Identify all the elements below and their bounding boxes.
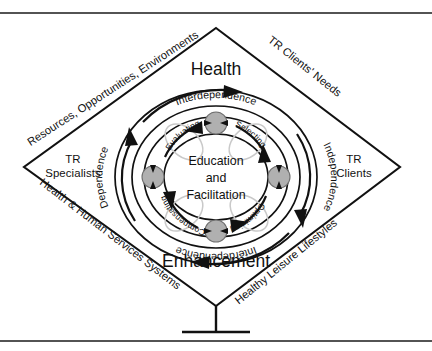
edge-label-bottom-left: Health & Human Services Systems — [38, 176, 184, 292]
corner-label-left-line1: TR — [65, 153, 80, 165]
corner-label-right-line2: Clients — [336, 167, 372, 179]
node-left — [142, 165, 164, 189]
core-line-2: and — [206, 171, 227, 185]
edge-label-top-left: Resources, Opportunities, Environments — [25, 28, 201, 148]
flow-arc-outer-right — [297, 134, 310, 215]
node-bottom — [204, 220, 228, 242]
corner-label-right-line1: TR — [346, 153, 361, 165]
figure-root: Resources, Opportunities, Environments T… — [0, 0, 432, 351]
tr-service-delivery-model-diagram: Resources, Opportunities, Environments T… — [0, 0, 432, 351]
ring-label-right: Independence — [321, 140, 341, 214]
pedestal-stand — [182, 306, 250, 332]
axis-label-health: Health — [191, 59, 242, 79]
node-right — [268, 165, 290, 189]
ring-label-top: Interdependence — [173, 88, 258, 107]
node-top — [204, 112, 228, 134]
core-line-1: Education — [188, 154, 243, 168]
core-line-3: Facilitation — [186, 188, 245, 202]
edge-label-top-right: TR Clients' Needs — [266, 33, 344, 99]
flow-arc-outer-left — [122, 140, 135, 221]
ring-label-left: Dependence — [92, 144, 110, 210]
